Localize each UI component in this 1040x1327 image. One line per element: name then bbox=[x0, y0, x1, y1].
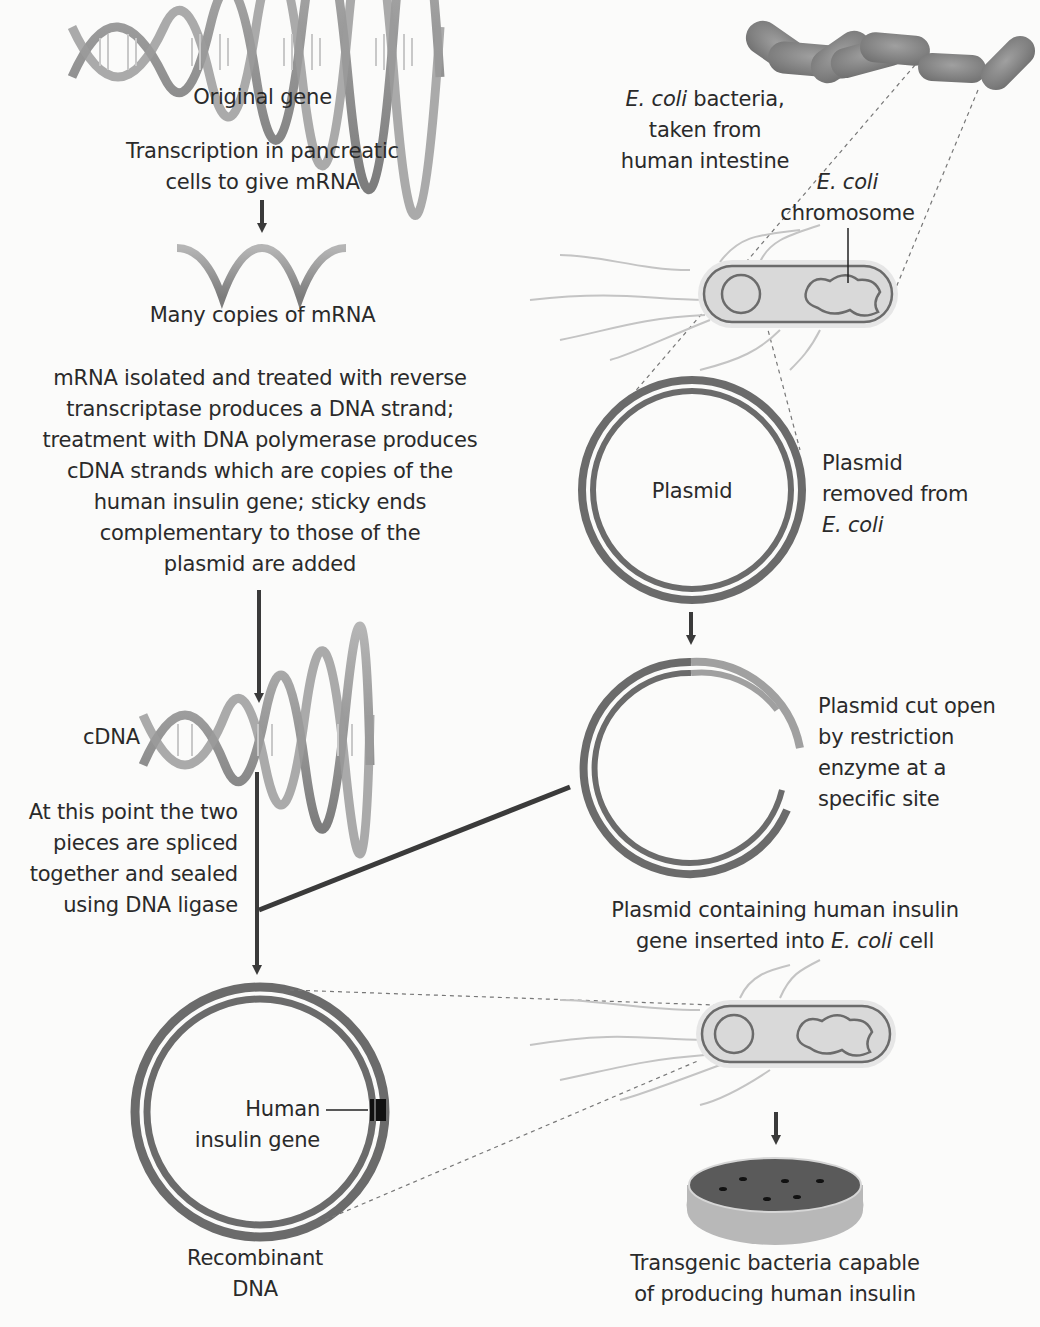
text-line: of producing human insulin bbox=[600, 1279, 950, 1310]
text-line: DNA bbox=[150, 1274, 360, 1305]
text-line: mRNA isolated and treated with reverse bbox=[10, 363, 510, 394]
ecoli-bacteria-label: E. coli bacteria, taken from human intes… bbox=[595, 84, 815, 177]
text-line: Transgenic bacteria capable bbox=[600, 1248, 950, 1279]
text-line: plasmid are added bbox=[10, 549, 510, 580]
text: cell bbox=[892, 929, 934, 953]
text-line: E. coli bbox=[822, 510, 1022, 541]
text-line: E. coli bbox=[765, 167, 930, 198]
text: gene inserted into bbox=[636, 929, 831, 953]
text-line: transcriptase produces a DNA strand; bbox=[10, 394, 510, 425]
text-line: using DNA ligase bbox=[0, 890, 238, 921]
text-line: together and sealed bbox=[0, 859, 238, 890]
mrna-copies-label: Many copies of mRNA bbox=[110, 300, 415, 331]
petri-dish-icon bbox=[687, 1158, 863, 1245]
transgenic-bacteria-label: Transgenic bacteria capable of producing… bbox=[600, 1248, 950, 1310]
transcription-label: Transcription in pancreatic cells to giv… bbox=[90, 136, 435, 198]
splice-connector-line bbox=[259, 787, 570, 910]
ecoli-chromosome-label: E. coli chromosome bbox=[765, 167, 930, 229]
text-line: insulin gene bbox=[160, 1125, 320, 1156]
splicing-label: At this point the two pieces are spliced… bbox=[0, 797, 238, 921]
text-line: treatment with DNA polymerase produces bbox=[10, 425, 510, 456]
text-line: complementary to those of the bbox=[10, 518, 510, 549]
cut-plasmid bbox=[584, 662, 800, 874]
text-line: enzyme at a bbox=[818, 753, 1033, 784]
text-line: Plasmid bbox=[822, 448, 1022, 479]
text-line: Plasmid cut open bbox=[818, 691, 1033, 722]
plasmid-removed-label: Plasmid removed from E. coli bbox=[822, 448, 1022, 541]
text-line: Recombinant bbox=[150, 1243, 360, 1274]
human-insulin-gene-label: Human insulin gene bbox=[160, 1094, 320, 1156]
text-line: by restriction bbox=[818, 722, 1033, 753]
plasmid-center-label: Plasmid bbox=[632, 476, 752, 507]
original-gene-label: Original gene bbox=[150, 82, 375, 113]
transcription-line: cells to give mRNA bbox=[90, 167, 435, 198]
text-line: At this point the two bbox=[0, 797, 238, 828]
mrna-strand-icon bbox=[177, 248, 346, 297]
plasmid-cut-label: Plasmid cut open by restriction enzyme a… bbox=[818, 691, 1033, 815]
transcription-line: Transcription in pancreatic bbox=[90, 136, 435, 167]
cdna-label: cDNA bbox=[60, 722, 140, 753]
text-line: E. coli bacteria, bbox=[595, 84, 815, 115]
text-line: Human bbox=[160, 1094, 320, 1125]
recombinant-dna-label: Recombinant DNA bbox=[150, 1243, 360, 1305]
italic-text: E. coli bbox=[626, 87, 687, 111]
text: bacteria, bbox=[687, 87, 785, 111]
ecoli-cell bbox=[530, 225, 898, 370]
plasmid-inserted-label: Plasmid containing human insulin gene in… bbox=[575, 895, 995, 957]
text-line: gene inserted into E. coli cell bbox=[575, 926, 995, 957]
text-line: human insulin gene; sticky ends bbox=[10, 487, 510, 518]
italic-text: E. coli bbox=[822, 513, 883, 537]
text-line: removed from bbox=[822, 479, 1022, 510]
transgenic-ecoli-cell bbox=[530, 960, 896, 1105]
reverse-transcription-label: mRNA isolated and treated with reverse t… bbox=[10, 363, 510, 580]
text-line: Plasmid containing human insulin bbox=[575, 895, 995, 926]
text-line: taken from bbox=[595, 115, 815, 146]
text-line: cDNA strands which are copies of the bbox=[10, 456, 510, 487]
italic-text: E. coli bbox=[817, 170, 878, 194]
text-line: chromosome bbox=[765, 198, 930, 229]
italic-text: E. coli bbox=[831, 929, 892, 953]
text-line: specific site bbox=[818, 784, 1033, 815]
text-line: pieces are spliced bbox=[0, 828, 238, 859]
